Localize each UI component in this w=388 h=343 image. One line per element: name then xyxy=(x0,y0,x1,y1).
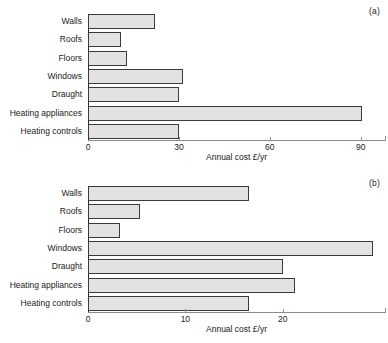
x-axis-title-a: Annual cost £/yr xyxy=(88,152,385,162)
bar-row xyxy=(88,106,385,121)
bar-roofs xyxy=(88,32,121,47)
bar-row xyxy=(88,14,385,29)
figure-container: (a) WallsRoofsFloorsWindowsDraughtHeatin… xyxy=(0,0,388,343)
tick-label: 20 xyxy=(278,314,287,324)
category-label: Heating appliances xyxy=(0,106,86,121)
bar-windows xyxy=(88,69,183,84)
bar-roofs xyxy=(88,204,140,219)
category-label: Heating appliances xyxy=(0,278,86,293)
bar-row xyxy=(88,186,385,201)
bar-heating-appliances xyxy=(88,106,362,121)
category-label: Draught xyxy=(0,259,86,274)
tick-mark xyxy=(283,309,284,313)
bar-floors xyxy=(88,51,127,66)
bar-heating-controls xyxy=(88,296,249,311)
bar-row xyxy=(88,259,385,274)
category-label: Walls xyxy=(0,14,86,29)
tick-label: 60 xyxy=(265,142,274,152)
plot-area-a xyxy=(88,14,385,139)
category-axis-labels-b: WallsRoofsFloorsWindowsDraughtHeating ap… xyxy=(0,186,86,311)
tick-label: 0 xyxy=(86,142,91,152)
tick-label: 30 xyxy=(174,142,183,152)
category-label: Floors xyxy=(0,223,86,238)
plot-area-b xyxy=(88,186,385,311)
category-label: Draught xyxy=(0,87,86,102)
tick-mark xyxy=(361,137,362,141)
bar-row xyxy=(88,278,385,293)
bar-row xyxy=(88,69,385,84)
category-label: Floors xyxy=(0,51,86,66)
category-label: Heating controls xyxy=(0,296,86,311)
tick-mark xyxy=(185,309,186,313)
chart-panel-a: (a) WallsRoofsFloorsWindowsDraughtHeatin… xyxy=(0,0,388,171)
bar-windows xyxy=(88,241,373,256)
bar-draught xyxy=(88,259,283,274)
bar-row xyxy=(88,223,385,238)
bar-draught xyxy=(88,87,179,102)
axis-end-tick xyxy=(385,136,386,141)
bar-row xyxy=(88,87,385,102)
bar-walls xyxy=(88,14,155,29)
category-label: Roofs xyxy=(0,204,86,219)
category-label: Windows xyxy=(0,69,86,84)
bar-heating-controls xyxy=(88,124,179,139)
bar-walls xyxy=(88,186,249,201)
tick-label: 10 xyxy=(181,314,190,324)
category-label: Walls xyxy=(0,186,86,201)
bar-row xyxy=(88,51,385,66)
bar-heating-appliances xyxy=(88,278,295,293)
x-axis-title-b: Annual cost £/yr xyxy=(88,324,385,334)
tick-label: 90 xyxy=(356,142,365,152)
category-label: Roofs xyxy=(0,32,86,47)
category-axis-labels-a: WallsRoofsFloorsWindowsDraughtHeating ap… xyxy=(0,14,86,139)
tick-label: 0 xyxy=(86,314,91,324)
bar-series-a xyxy=(88,14,385,139)
bar-row xyxy=(88,124,385,139)
tick-mark xyxy=(179,137,180,141)
chart-panel-b: (b) WallsRoofsFloorsWindowsDraughtHeatin… xyxy=(0,172,388,343)
bar-row xyxy=(88,204,385,219)
axis-end-tick xyxy=(385,308,386,313)
category-label: Heating controls xyxy=(0,124,86,139)
bar-series-b xyxy=(88,186,385,311)
tick-mark xyxy=(270,137,271,141)
category-label: Windows xyxy=(0,241,86,256)
bar-row xyxy=(88,296,385,311)
bar-floors xyxy=(88,223,120,238)
bar-row xyxy=(88,32,385,47)
bar-row xyxy=(88,241,385,256)
